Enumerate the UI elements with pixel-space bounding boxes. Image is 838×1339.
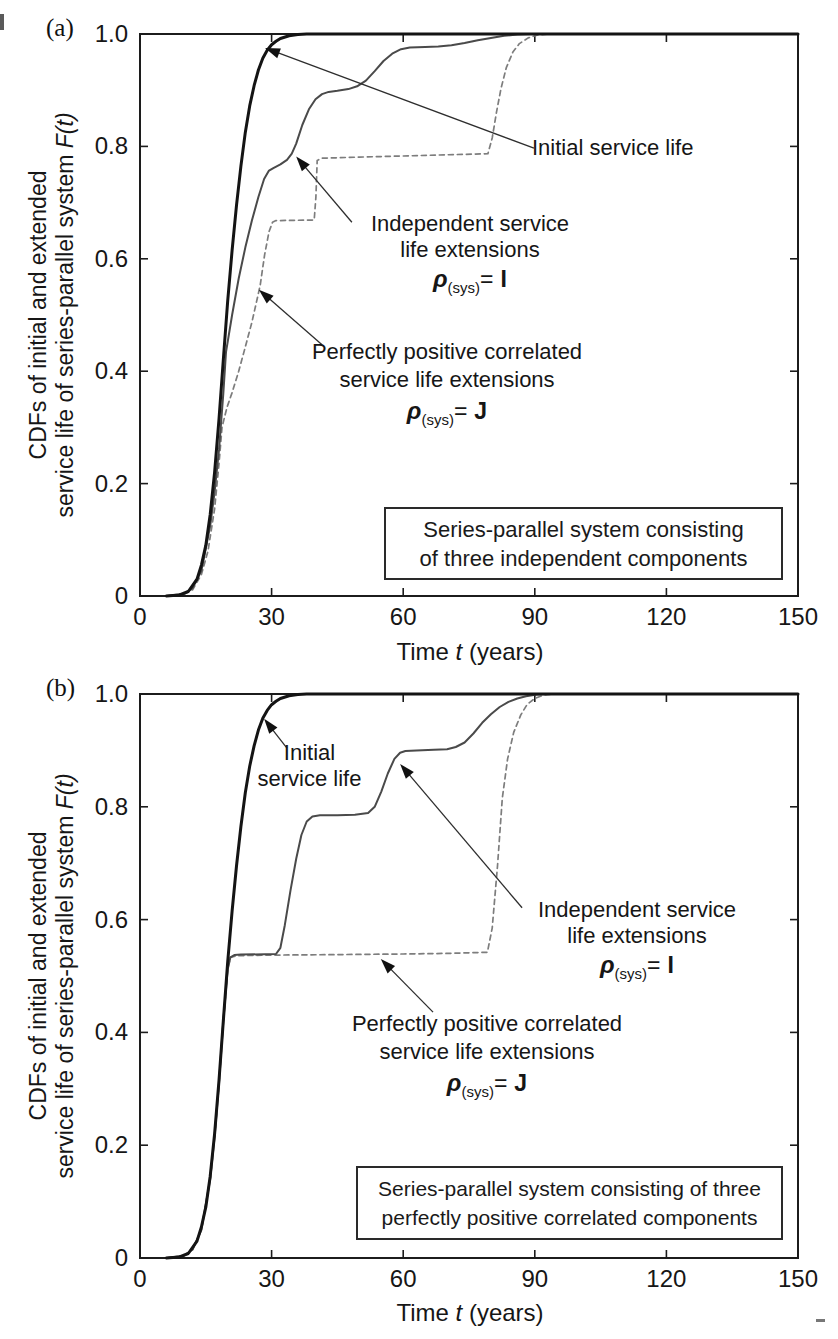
annotation-correlated-extensions-b: Perfectly positive correlated service li… <box>337 1010 637 1106</box>
y-tick-label: 1.0 <box>56 681 128 707</box>
independent-extensions-arrow-head <box>296 157 310 172</box>
box-line: Series-parallel system consisting of thr… <box>358 1174 781 1203</box>
y-axis-label-line1: CDFs of initial and extended <box>25 676 52 1276</box>
x-tick-label: 60 <box>373 604 433 630</box>
independent-extensions-arrow-head <box>400 764 414 779</box>
system-description-box-a: Series-parallel system consisting of thr… <box>384 507 783 580</box>
scan-artifact-dash <box>816 1319 825 1322</box>
annotation-line: service life <box>252 766 367 792</box>
system-description-box-b: Series-parallel system consisting of thr… <box>356 1166 783 1240</box>
initial-service-life-arrow-head <box>264 719 277 734</box>
annotation-initial-service-life-a: Initial service life <box>532 135 693 161</box>
y-tick-label: 0.6 <box>56 246 128 272</box>
box-line: perfectly positive correlated components <box>358 1203 781 1232</box>
annotation-line: Perfectly positive correlated <box>337 1010 637 1038</box>
annotation-line: service life extensions <box>297 366 597 394</box>
annotation-correlated-extensions-a: Perfectly positive correlated service li… <box>297 338 597 434</box>
panel-a-y-axis-label: CDFs of initial and extended service lif… <box>25 15 79 615</box>
y-tick-label: 0.4 <box>56 358 128 384</box>
y-tick-label: 1.0 <box>56 21 128 47</box>
annotation-line: life extensions <box>522 923 752 949</box>
x-tick-label: 120 <box>636 1266 696 1292</box>
rho-sys-equals-J: ρ(sys)=J <box>297 397 597 434</box>
y-tick-label: 0 <box>56 1245 128 1271</box>
annotation-line: life extensions <box>355 237 585 263</box>
independent-extensions-arrow-line <box>304 166 352 223</box>
rho-sys-equals-I: ρ(sys)=I <box>522 952 752 987</box>
y-axis-label-line2: service life of series-parallel system F… <box>52 15 79 615</box>
y-tick-label: 0.8 <box>56 133 128 159</box>
y-tick-label: 0 <box>56 583 128 609</box>
panel-a-x-axis-label: Time t (years) <box>340 638 600 666</box>
x-tick-label: 30 <box>242 1266 302 1292</box>
figure-cdf-service-life: (a) (b) CDFs of initial and extended ser… <box>0 0 838 1339</box>
panel-b-x-axis-label: Time t (years) <box>340 1299 600 1327</box>
x-tick-label: 90 <box>505 604 565 630</box>
annotation-line: Initial <box>252 740 367 766</box>
annotation-line: Independent service <box>522 897 752 923</box>
y-tick-label: 0.4 <box>56 1019 128 1045</box>
rho-sys-equals-I: ρ(sys)=I <box>355 266 585 301</box>
annotation-line: Perfectly positive correlated <box>297 338 597 366</box>
annotation-independent-extensions-b: Independent service life extensions ρ(sy… <box>522 897 752 987</box>
y-tick-label: 0.8 <box>56 794 128 820</box>
x-tick-label: 60 <box>373 1266 433 1292</box>
initial-service-life-arrow-head <box>265 48 281 58</box>
panel-b-y-axis-label: CDFs of initial and extended service lif… <box>25 676 79 1276</box>
box-line: Series-parallel system consisting <box>386 515 781 544</box>
x-tick-label: 30 <box>242 604 302 630</box>
rho-sys-equals-J: ρ(sys)=J <box>337 1069 637 1106</box>
scan-artifact-edge <box>0 14 4 30</box>
y-axis-label-line1: CDFs of initial and extended <box>25 15 52 615</box>
box-line: of three independent components <box>386 544 781 573</box>
x-tick-label: 90 <box>505 1266 565 1292</box>
y-axis-label-line2: service life of series-parallel system F… <box>52 676 79 1276</box>
x-tick-label: 120 <box>636 604 696 630</box>
x-tick-label: 150 <box>768 1266 828 1292</box>
annotation-line: service life extensions <box>337 1038 637 1066</box>
correlated-extensions-arrow-line <box>389 968 433 1012</box>
y-tick-label: 0.2 <box>56 471 128 497</box>
annotation-initial-service-life-b: Initial service life <box>252 740 367 792</box>
annotation-line: Independent service <box>355 211 585 237</box>
y-tick-label: 0.6 <box>56 907 128 933</box>
y-tick-label: 0.2 <box>56 1132 128 1158</box>
x-tick-label: 150 <box>768 604 828 630</box>
annotation-independent-extensions-a: Independent service life extensions ρ(sy… <box>355 211 585 301</box>
independent-extensions-arrow-line <box>408 773 522 908</box>
